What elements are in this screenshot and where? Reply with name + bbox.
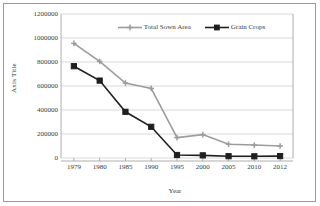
- data-point: [200, 153, 205, 158]
- x-tick-label: 2000: [196, 163, 210, 171]
- data-point: [97, 78, 102, 83]
- x-axis-tick-labels: 197919801985199019952000200520102012: [57, 163, 297, 177]
- data-point: [226, 154, 231, 159]
- series-line: [74, 43, 280, 146]
- legend-swatch: [205, 23, 229, 32]
- data-point: [71, 64, 76, 69]
- x-tick-label: 1990: [144, 163, 158, 171]
- x-tick-label: 2010: [247, 163, 261, 171]
- legend-item[interactable]: Total Sown Area: [118, 23, 191, 32]
- x-axis-title: Year: [60, 187, 290, 195]
- x-tick-label: 2012: [273, 163, 287, 171]
- chart-legend: Total Sown AreaGrain Crops: [104, 20, 279, 34]
- legend-swatch: [118, 23, 142, 32]
- legend-label: Total Sown Area: [144, 23, 191, 31]
- x-tick-label: 1979: [67, 163, 81, 171]
- data-point: [252, 154, 257, 159]
- data-point: [149, 124, 154, 129]
- data-point: [174, 152, 179, 157]
- legend-label: Grain Crops: [231, 23, 265, 31]
- series-line: [74, 66, 280, 156]
- x-tick-label: 1985: [118, 163, 132, 171]
- x-tick-label: 1980: [93, 163, 107, 171]
- x-tick-label: 2005: [222, 163, 236, 171]
- data-point: [278, 153, 283, 158]
- legend-item[interactable]: Grain Crops: [205, 23, 265, 32]
- chart-canvas: Axis Title 02000004000006000008000001000…: [0, 0, 320, 206]
- x-tick-label: 1995: [170, 163, 184, 171]
- data-point: [123, 109, 128, 114]
